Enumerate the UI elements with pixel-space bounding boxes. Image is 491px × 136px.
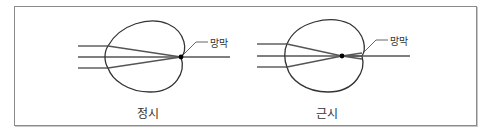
retina-label-emmetropia: 망막 xyxy=(210,35,228,50)
caption-myopia: 근시 xyxy=(316,104,339,121)
retina-leader-line xyxy=(184,42,208,54)
retina-label-myopia: 망막 xyxy=(390,33,408,48)
panel-emmetropia xyxy=(78,21,230,92)
focal-point-dot xyxy=(179,55,184,60)
retina-leader-line xyxy=(364,40,388,52)
focal-point-dot xyxy=(340,54,345,59)
panel-myopia xyxy=(257,20,410,92)
eye-diagram xyxy=(0,0,491,136)
caption-emmetropia: 정시 xyxy=(137,104,160,121)
